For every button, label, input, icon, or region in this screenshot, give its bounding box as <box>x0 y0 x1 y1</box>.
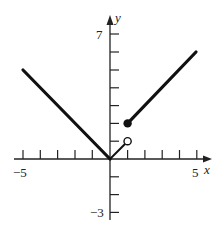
y-min-label: −3 <box>90 205 104 220</box>
piecewise-graph: 7 −3 −5 5 x y <box>0 0 218 225</box>
x-min-label: −5 <box>13 165 27 180</box>
right-branch <box>128 52 196 123</box>
x-axis-label: x <box>203 162 210 177</box>
y-max-label: 7 <box>96 27 103 42</box>
filled-circle-marker <box>123 119 131 127</box>
y-axis-label: y <box>113 10 121 25</box>
y-axis-arrow-icon <box>107 15 114 25</box>
y-ticks <box>110 34 119 212</box>
open-circle-marker <box>124 138 131 145</box>
x-max-label: 5 <box>192 165 199 180</box>
middle-branch <box>110 144 125 159</box>
left-branch <box>23 70 110 159</box>
